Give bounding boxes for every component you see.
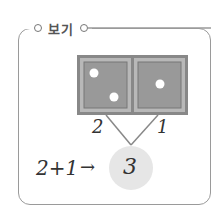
left-label: 2	[92, 116, 103, 137]
domino-diagram	[0, 0, 223, 218]
result-value: 3	[123, 154, 137, 179]
pip	[90, 69, 99, 78]
equation-expression: 2+1	[36, 156, 78, 180]
arrow-icon: →	[80, 156, 95, 177]
pip	[156, 80, 165, 89]
pip	[110, 93, 119, 102]
right-label: 1	[157, 116, 168, 137]
